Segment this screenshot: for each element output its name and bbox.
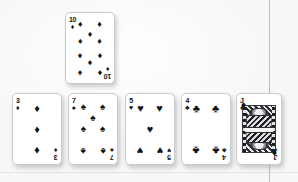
clubs-pip-icon: ♣ xyxy=(193,103,200,114)
spades-pip-icon: ♠ xyxy=(81,146,86,156)
card-bottom-7-spades-pips: ♠♠♠♠♠♠♠ xyxy=(69,94,117,164)
card-top-10-diamonds[interactable]: 10♦10♦♦♦♦♦♦♦♦♦♦♦ xyxy=(65,12,115,84)
card-bottom-3-diamonds-pips: ♦♦♦ xyxy=(13,94,61,164)
card-bottom-5-hearts-pips: ♥♥♥♥♥ xyxy=(126,94,174,164)
diamonds-pip-icon: ♦ xyxy=(78,37,83,46)
clubs-pip-icon: ♣ xyxy=(212,145,219,156)
diamonds-icon: ♦ xyxy=(241,100,246,110)
diamonds-pip-icon: ♦ xyxy=(88,30,93,39)
diamonds-pip-icon: ♦ xyxy=(78,20,83,29)
spades-pip-icon: ♠ xyxy=(100,124,105,134)
diamonds-pip-icon: ♦ xyxy=(78,51,83,60)
hearts-pip-icon: ♥ xyxy=(156,103,163,114)
spades-pip-icon: ♠ xyxy=(81,102,86,112)
hearts-pip-icon: ♥ xyxy=(156,145,163,156)
card-bottom-4-clubs-pips: ♣♣♣♣ xyxy=(182,94,230,164)
diamonds-pip-icon: ♦ xyxy=(34,145,40,156)
card-bottom-7-spades[interactable]: 7♠7♠♠♠♠♠♠♠♠ xyxy=(68,93,118,165)
diamonds-pip-icon: ♦ xyxy=(97,67,102,76)
diamonds-pip-icon: ♦ xyxy=(34,103,40,114)
hearts-pip-icon: ♥ xyxy=(147,124,154,135)
card-bottom-5-hearts[interactable]: 5♥5♥♥♥♥♥♥ xyxy=(125,93,175,165)
clubs-pip-icon: ♣ xyxy=(212,103,219,114)
diamonds-icon: ♦ xyxy=(272,148,277,158)
card-bottom-jack-diamonds-court-figure xyxy=(242,105,276,153)
diamonds-pip-icon: ♦ xyxy=(97,51,102,60)
clubs-pip-icon: ♣ xyxy=(193,145,200,156)
card-bottom-3-diamonds[interactable]: 3♦3♦♦♦♦ xyxy=(12,93,62,165)
spades-pip-icon: ♠ xyxy=(90,113,95,123)
card-bottom-4-clubs[interactable]: 4♣4♣♣♣♣♣ xyxy=(181,93,231,165)
spades-pip-icon: ♠ xyxy=(81,124,86,134)
diamonds-pip-icon: ♦ xyxy=(97,20,102,29)
diamonds-pip-icon: ♦ xyxy=(78,67,83,76)
spades-pip-icon: ♠ xyxy=(100,102,105,112)
diamonds-pip-icon: ♦ xyxy=(97,37,102,46)
diamonds-pip-icon: ♦ xyxy=(88,58,93,67)
card-scene: 10♦10♦♦♦♦♦♦♦♦♦♦♦3♦3♦♦♦♦7♠7♠♠♠♠♠♠♠♠5♥5♥♥♥… xyxy=(0,0,298,182)
diamonds-pip-icon: ♦ xyxy=(34,124,40,135)
horizontal-guide-line xyxy=(0,172,298,173)
card-top-10-diamonds-pips: ♦♦♦♦♦♦♦♦♦♦ xyxy=(66,13,114,83)
hearts-pip-icon: ♥ xyxy=(137,103,144,114)
spades-pip-icon: ♠ xyxy=(100,146,105,156)
card-bottom-jack-diamonds[interactable]: J♦J♦♦♦ xyxy=(236,93,282,165)
court-sash xyxy=(245,127,273,133)
hearts-pip-icon: ♥ xyxy=(137,145,144,156)
court-half-top xyxy=(243,106,275,129)
